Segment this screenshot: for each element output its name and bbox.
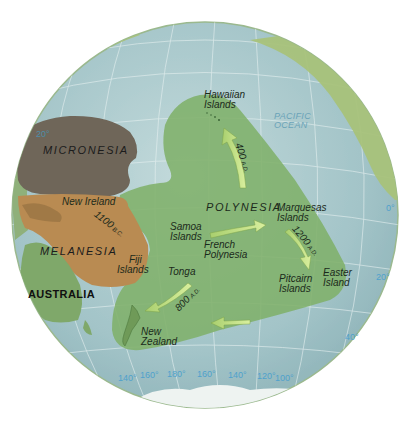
fiji-line2: Islands (117, 265, 149, 275)
lon-label-160e: 160° (140, 370, 159, 380)
lon-label-160w: 160° (197, 369, 216, 379)
lat-label-20s: 20° (376, 272, 390, 282)
lon-label-100w: 100° (275, 373, 294, 383)
pacific-ocean-label: PACIFIC OCEAN (274, 112, 311, 130)
lat-label-0: 0° (386, 203, 395, 213)
polynesia-label: POLYNESIA (206, 201, 282, 213)
samoa-line2: Islands (170, 232, 202, 242)
pacific-ocean-line2: OCEAN (274, 121, 311, 130)
new-ireland-label: New Ireland (62, 197, 115, 207)
lon-label-180: 180° (167, 369, 186, 379)
french-polynesia-line2: Polynesia (204, 250, 247, 260)
micronesia-label: MICRONESIA (43, 144, 129, 156)
lon-label-120w: 120° (257, 371, 276, 381)
antarctica-land (135, 385, 330, 420)
new-zealand-label: New Zealand (141, 327, 177, 347)
hawaiian-line2: Islands (204, 100, 245, 110)
pacific-globe-map (0, 0, 409, 427)
hawaiian-islands-label: Hawaiian Islands (204, 90, 245, 110)
lat-label-20n: 20° (36, 129, 50, 139)
new-zealand-line2: Zealand (141, 337, 177, 347)
marquesas-line2: Islands (277, 213, 326, 223)
australia-label: AUSTRALIA (28, 288, 95, 300)
lon-label-140w: 140° (228, 370, 247, 380)
lat-label-40s: 40° (345, 332, 359, 342)
easter-island-label: Easter Island (323, 268, 352, 288)
date-400ad-era: A.D. (240, 160, 249, 173)
pitcairn-islands-label: Pitcairn Islands (279, 274, 312, 294)
samoa-islands-label: Samoa Islands (170, 222, 202, 242)
fiji-islands-label: Fiji Islands (117, 255, 149, 275)
easter-line2: Island (323, 278, 352, 288)
french-polynesia-label: French Polynesia (204, 240, 247, 260)
pitcairn-line2: Islands (279, 284, 312, 294)
melanesia-label: MELANESIA (40, 245, 117, 257)
lon-label-140w-left: 140° (118, 373, 137, 383)
tonga-label: Tonga (168, 267, 195, 277)
marquesas-islands-label: Marquesas Islands (277, 203, 326, 223)
